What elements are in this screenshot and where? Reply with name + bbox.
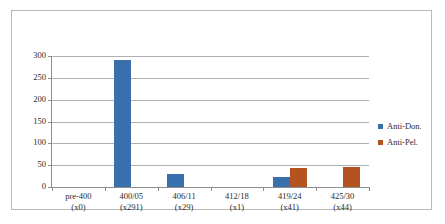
x-axis-category-label: 419/24(x41) [263, 191, 316, 214]
category-name: 425/30 [316, 191, 369, 202]
bar-group [105, 56, 158, 187]
chart-legend: Anti-Don.Anti-Pel. [378, 118, 430, 150]
bar-group-bars [211, 56, 264, 187]
bar-chart: 050100150200250300 pre-400(x0)400/05(x29… [12, 11, 431, 209]
legend-label: Anti-Don. [387, 121, 422, 131]
bar[interactable] [273, 177, 290, 187]
x-axis-category-label: 425/30(x44) [316, 191, 369, 214]
bar-group [52, 56, 105, 187]
bar-group [263, 56, 316, 187]
category-count: (x291) [105, 202, 158, 213]
legend-label: Anti-Pel. [387, 137, 418, 147]
y-axis-tick-label: 200 [20, 95, 46, 104]
y-axis-tick-label: 300 [20, 51, 46, 60]
category-name: 406/11 [158, 191, 211, 202]
y-axis-labels: 050100150200250300 [18, 11, 46, 209]
category-count: (x1) [211, 202, 264, 213]
bar-group-bars [52, 56, 105, 187]
x-axis-category-label: 400/05(x291) [105, 191, 158, 214]
bar-group-bars [158, 56, 211, 187]
x-axis-tick-mark [369, 187, 370, 191]
y-axis-tick-label: 100 [20, 138, 46, 147]
x-axis-category-label: 406/11(x29) [158, 191, 211, 214]
bar[interactable] [167, 174, 184, 187]
category-count: (x41) [263, 202, 316, 213]
legend-swatch-icon [378, 140, 383, 145]
bar-group-bars [105, 56, 158, 187]
category-count: (x0) [52, 202, 105, 213]
x-axis-category-label: 412/18(x1) [211, 191, 264, 214]
bar[interactable] [114, 60, 131, 187]
y-axis-tick-label: 150 [20, 117, 46, 126]
category-name: 412/18 [211, 191, 264, 202]
plot-area [52, 56, 369, 187]
bar-group [211, 56, 264, 187]
bar[interactable] [343, 167, 360, 187]
legend-swatch-icon [378, 124, 383, 129]
category-count: (x29) [158, 202, 211, 213]
legend-item[interactable]: Anti-Don. [378, 118, 430, 134]
y-axis-tick-label: 0 [20, 182, 46, 191]
chart-figure: 050100150200250300 pre-400(x0)400/05(x29… [11, 10, 432, 210]
category-name: pre-400 [52, 191, 105, 202]
bar-group-bars [263, 56, 316, 187]
x-axis-line [51, 187, 369, 188]
x-axis-category-label: pre-400(x0) [52, 191, 105, 214]
category-count: (x44) [316, 202, 369, 213]
bar[interactable] [290, 168, 307, 187]
y-axis-tick-label: 50 [20, 160, 46, 169]
category-name: 400/05 [105, 191, 158, 202]
legend-item[interactable]: Anti-Pel. [378, 134, 430, 150]
bar-group [158, 56, 211, 187]
y-axis-tick-label: 250 [20, 73, 46, 82]
category-name: 419/24 [263, 191, 316, 202]
bar-group-bars [316, 56, 369, 187]
bar-group [316, 56, 369, 187]
